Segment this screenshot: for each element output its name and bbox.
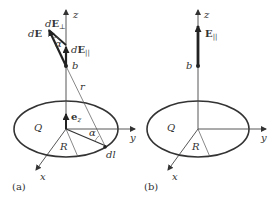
caption-b: (b) <box>144 181 158 192</box>
Q-label-a: Q <box>34 122 42 133</box>
y-label-b: y <box>260 132 267 143</box>
R-label-a: R <box>59 141 68 152</box>
ring-charge-field-diagram: z y x dE⊥ dE dE|| α b r ez Q R α dl (a) … <box>0 0 279 200</box>
alpha-label-bottom: α <box>89 127 96 138</box>
dl-label: dl <box>106 149 116 160</box>
dE-par-label: dE|| <box>71 44 90 57</box>
panel-a: z y x dE⊥ dE dE|| α b r ez Q R α dl (a) <box>12 9 136 192</box>
b-label-a: b <box>72 60 78 71</box>
z-label-b: z <box>203 9 210 20</box>
ez-label: ez <box>71 111 81 124</box>
caption-a: (a) <box>12 181 26 192</box>
panel-b: z y x E|| b Q R (b) <box>144 9 267 192</box>
r-label: r <box>80 81 86 92</box>
alpha-label-top: α <box>55 38 62 49</box>
E-par-label: E|| <box>205 28 217 41</box>
dE-label: dE <box>28 28 42 39</box>
Q-label-b: Q <box>167 122 175 133</box>
z-label-a: z <box>72 9 79 20</box>
dE-perp-label: dE⊥ <box>45 18 66 31</box>
y-label-a: y <box>129 132 136 143</box>
x-label-b: x <box>172 171 178 182</box>
b-label-b: b <box>186 60 192 71</box>
R-label-b: R <box>191 141 200 152</box>
x-label-a: x <box>40 171 46 182</box>
radius-line-b <box>198 129 210 157</box>
point-b-a <box>64 64 68 68</box>
point-b-b <box>196 64 200 68</box>
